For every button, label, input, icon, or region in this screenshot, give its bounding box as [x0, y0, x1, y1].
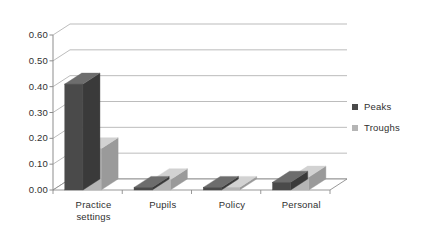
y-axis-label: 0.10 — [4, 159, 48, 169]
x-axis-label-line: Personal — [282, 199, 321, 210]
bar-front — [203, 187, 221, 190]
legend-item-troughs[interactable]: Troughs — [352, 119, 422, 136]
bar-peaks-0 — [65, 73, 100, 190]
bar-side — [83, 73, 100, 190]
x-axis-category-labels: PracticesettingsPupilsPolicyPersonal — [0, 196, 340, 234]
y-axis-label: 0.20 — [4, 133, 48, 143]
x-axis-label-line: settings — [49, 211, 139, 223]
legend-label: Peaks — [364, 102, 391, 112]
gridline-0.50 — [53, 50, 347, 61]
y-axis-label: 0.00 — [4, 185, 48, 195]
legend-item-peaks[interactable]: Peaks — [352, 98, 422, 115]
bar-front — [65, 84, 83, 190]
legend-swatch-icon — [352, 125, 358, 131]
bar-chart: 0.000.100.200.300.400.500.60 Practiceset… — [0, 0, 423, 234]
legend-swatch-icon — [352, 104, 358, 110]
x-axis-label-line: Policy — [219, 199, 246, 210]
y-axis-label: 0.50 — [4, 56, 48, 66]
y-axis-label: 0.60 — [4, 30, 48, 40]
y-axis-label: 0.40 — [4, 82, 48, 92]
x-axis-label-line: Practice — [76, 199, 112, 210]
legend-label: Troughs — [364, 123, 400, 133]
gridline-0.60 — [53, 24, 347, 35]
bar-front — [134, 187, 152, 190]
bar-front — [273, 182, 291, 190]
x-axis-label-line: Pupils — [149, 199, 176, 210]
x-axis-label: Personal — [256, 199, 346, 211]
y-axis-label: 0.30 — [4, 108, 48, 118]
chart-legend: PeaksTroughs — [352, 98, 422, 140]
